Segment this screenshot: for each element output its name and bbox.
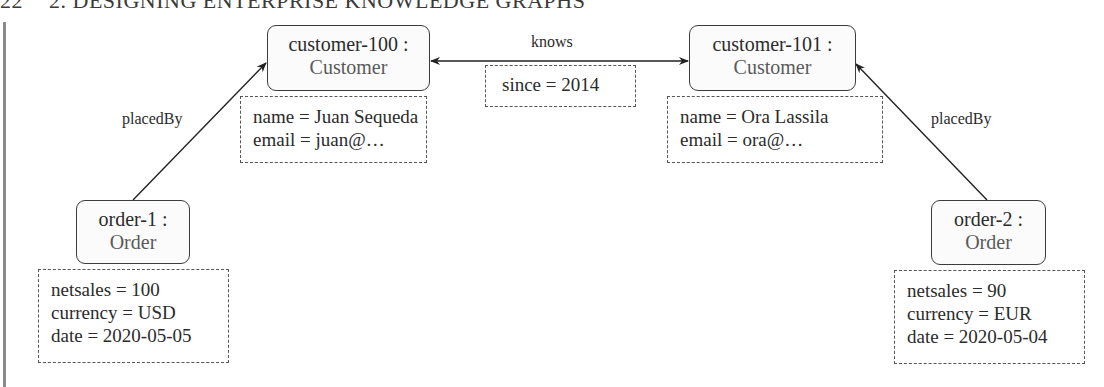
node-instance-label: order-2 :	[932, 208, 1045, 231]
attr-row: email = ora@…	[680, 128, 882, 151]
attrs-customer-101: name = Ora Lassila email = ora@…	[667, 96, 883, 163]
attrs-order-2: netsales = 90 currency = EUR date = 2020…	[894, 270, 1085, 364]
node-order-2[interactable]: order-2 : Order	[931, 200, 1046, 265]
knows-label: knows	[531, 33, 573, 51]
attr-row: name = Ora Lassila	[680, 105, 882, 128]
node-class-label: Customer	[268, 56, 429, 79]
node-instance-label: order-1 :	[77, 208, 189, 231]
attr-row: netsales = 100	[51, 278, 228, 301]
attrs-knows-edge: since = 2014	[485, 65, 636, 107]
attr-row: since = 2014	[502, 73, 635, 96]
attr-row: currency = USD	[51, 301, 228, 324]
node-class-label: Customer	[690, 56, 855, 79]
node-class-label: Order	[932, 231, 1045, 254]
node-instance-label: customer-100 :	[268, 33, 429, 56]
attrs-order-1: netsales = 100 currency = USD date = 202…	[38, 269, 229, 363]
node-instance-label: customer-101 :	[690, 33, 855, 56]
attr-row: date = 2020-05-05	[51, 324, 228, 347]
attr-row: date = 2020-05-04	[907, 325, 1084, 348]
attr-row: netsales = 90	[907, 279, 1084, 302]
node-customer-100[interactable]: customer-100 : Customer	[267, 25, 430, 91]
placed-by-label-2: placedBy	[931, 110, 991, 128]
attr-row: name = Juan Sequeda	[253, 105, 426, 128]
node-customer-101[interactable]: customer-101 : Customer	[689, 25, 856, 91]
attrs-customer-100: name = Juan Sequeda email = juan@…	[240, 96, 427, 163]
attr-row: currency = EUR	[907, 302, 1084, 325]
node-order-1[interactable]: order-1 : Order	[76, 200, 190, 264]
attr-row: email = juan@…	[253, 128, 426, 151]
placed-by-label-1: placedBy	[122, 110, 182, 128]
node-class-label: Order	[77, 231, 189, 254]
